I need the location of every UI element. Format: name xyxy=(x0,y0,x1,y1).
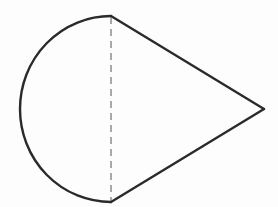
triangle-upper-side xyxy=(111,16,264,109)
composite-figure-diagram xyxy=(0,0,278,207)
semicircle-arc xyxy=(20,16,111,202)
triangle-lower-side xyxy=(111,109,264,202)
